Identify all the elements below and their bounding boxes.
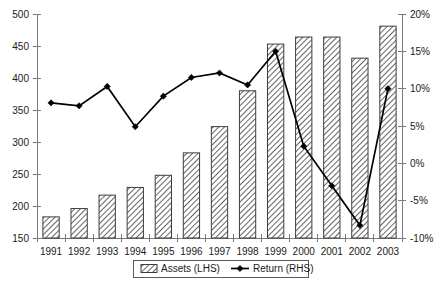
chart-container: 150200250300350400450500 -10%-5%0%5%10%1… xyxy=(0,0,439,287)
right-axis-tick-label: 5% xyxy=(410,121,425,132)
assets-bar xyxy=(155,175,171,238)
x-axis-tick-label: 2003 xyxy=(377,246,400,257)
chart-legend: Assets (LHS)Return (RHS) xyxy=(133,260,314,277)
left-axis-tick-label: 350 xyxy=(12,105,29,116)
x-axis-tick-label: 2001 xyxy=(321,246,344,257)
legend-swatch-assets xyxy=(141,265,157,273)
assets-bar xyxy=(352,58,368,238)
right-axis-tick-label: 20% xyxy=(410,9,430,20)
x-axis-tick-label: 1995 xyxy=(152,246,175,257)
left-axis-tick-label: 500 xyxy=(12,9,29,20)
left-axis-tick-label: 250 xyxy=(12,169,29,180)
left-axis-tick-label: 300 xyxy=(12,137,29,148)
assets-bar xyxy=(127,187,143,238)
assets-bar xyxy=(99,195,115,238)
x-axis-tick-label: 2000 xyxy=(293,246,316,257)
left-axis-tick-label: 150 xyxy=(12,233,29,244)
left-axis-tick-label: 200 xyxy=(12,201,29,212)
assets-bar xyxy=(183,153,199,238)
x-axis-tick-label: 1992 xyxy=(68,246,91,257)
x-axis-tick-label: 1993 xyxy=(96,246,119,257)
legend-label-assets: Assets (LHS) xyxy=(161,263,220,274)
right-axis-tick-label: 0% xyxy=(410,158,425,169)
right-axis-tick-label: 15% xyxy=(410,46,430,57)
assets-bar xyxy=(43,217,59,238)
x-axis-tick-label: 2002 xyxy=(349,246,372,257)
x-axis-tick-label: 1994 xyxy=(124,246,147,257)
x-axis-tick-label: 1998 xyxy=(236,246,259,257)
assets-bar xyxy=(296,37,312,238)
right-axis-tick-label: 10% xyxy=(410,83,430,94)
x-axis-tick-label: 1991 xyxy=(40,246,63,257)
legend-label-return: Return (RHS) xyxy=(253,263,314,274)
left-axis-tick-label: 450 xyxy=(12,41,29,52)
assets-return-combo-chart: 150200250300350400450500 -10%-5%0%5%10%1… xyxy=(0,0,439,287)
right-axis-tick-label: -5% xyxy=(410,195,428,206)
assets-bar xyxy=(71,209,87,238)
x-axis-tick-label: 1997 xyxy=(208,246,231,257)
left-axis-tick-label: 400 xyxy=(12,73,29,84)
assets-bar xyxy=(380,26,396,238)
assets-bar xyxy=(211,127,227,238)
assets-bar xyxy=(324,37,340,238)
right-axis-tick-label: -10% xyxy=(410,233,433,244)
assets-bar xyxy=(239,91,255,238)
x-axis-tick-label: 1996 xyxy=(180,246,203,257)
x-axis-tick-label: 1999 xyxy=(265,246,288,257)
